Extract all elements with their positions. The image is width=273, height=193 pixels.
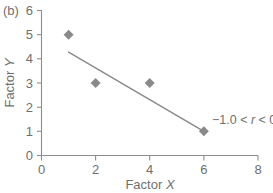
- y-tick-label-4: 4: [26, 51, 33, 66]
- y-tick-marks: [37, 11, 42, 156]
- data-point-marker: [145, 78, 155, 88]
- x-tick-label-4: 4: [146, 162, 153, 177]
- x-tick-label-8: 8: [254, 162, 261, 177]
- x-axis-title-symbol: X: [165, 177, 176, 192]
- y-tick-label-1: 1: [26, 124, 33, 139]
- y-tick-label-0: 0: [26, 148, 33, 163]
- x-axis-title: Factor X: [125, 177, 175, 192]
- chart-canvas: 6 5 4 3 2 1 0 0 2 4 6 8 Factor X Factor …: [0, 0, 273, 193]
- annotation-suffix: < 0: [255, 113, 273, 127]
- y-axis-title-symbol: Y: [2, 57, 17, 67]
- x-tick-label-0: 0: [38, 162, 45, 177]
- data-point-marker: [64, 30, 74, 40]
- scatter-plot-figure: (b) 6 5 4 3 2 1 0: [0, 0, 273, 193]
- annotation-prefix: −1.0 <: [212, 113, 251, 127]
- y-tick-label-2: 2: [26, 100, 33, 115]
- x-axis-title-prefix: Factor: [125, 177, 165, 192]
- y-tick-label-5: 5: [26, 27, 33, 42]
- data-point-marker: [91, 78, 101, 88]
- correlation-annotation: −1.0 < r < 0: [212, 113, 273, 127]
- data-point-marker: [199, 126, 209, 136]
- x-tick-marks: [42, 156, 259, 161]
- x-tick-label-6: 6: [200, 162, 207, 177]
- y-axis-title-prefix: Factor: [2, 67, 17, 107]
- y-axis-title: Factor Y: [2, 57, 17, 107]
- y-tick-label-3: 3: [26, 76, 33, 91]
- trend-line: [69, 52, 204, 131]
- y-tick-label-6: 6: [26, 3, 33, 18]
- x-tick-label-2: 2: [92, 162, 99, 177]
